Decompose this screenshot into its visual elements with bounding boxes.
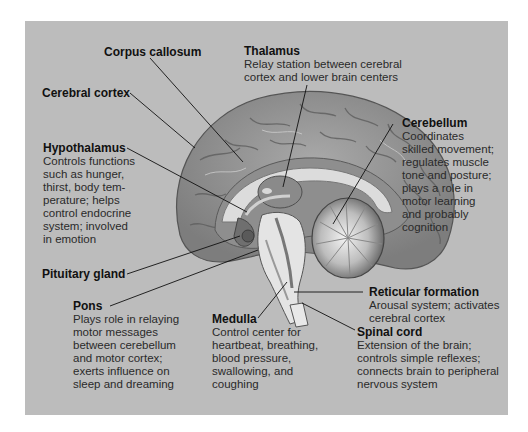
label-pons: Pons Plays role in relaying motor messag… bbox=[73, 299, 213, 391]
label-corpus-callosum: Corpus callosum bbox=[104, 45, 201, 59]
label-reticular-formation: Reticular formation Arousal system; acti… bbox=[369, 285, 509, 325]
label-pituitary-gland: Pituitary gland bbox=[42, 267, 125, 281]
label-cerebellum: Cerebellum Coordinates skilled movement;… bbox=[402, 116, 512, 234]
label-spinal-cord: Spinal cord Extension of the brain; cont… bbox=[357, 325, 517, 391]
label-cerebral-cortex: Cerebral cortex bbox=[42, 86, 130, 100]
pituitary-shape bbox=[242, 230, 254, 242]
cerebellum-shape bbox=[312, 198, 384, 278]
label-hypothalamus: Hypothalamus Controls functions such as … bbox=[43, 141, 153, 246]
label-thalamus: Thalamus Relay station between cerebral … bbox=[244, 44, 444, 84]
label-medulla: Medulla Control center for heartbeat, br… bbox=[212, 312, 332, 391]
